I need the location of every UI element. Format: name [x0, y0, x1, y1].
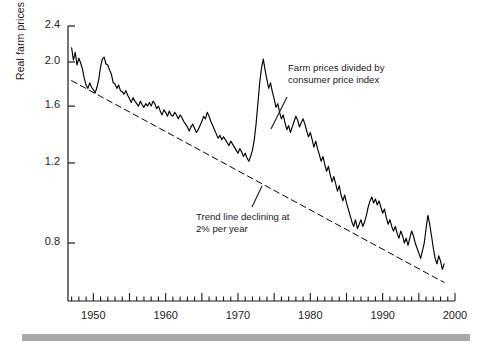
annotation-series-label: Farm prices divided by consumer price in… — [288, 62, 385, 87]
annotation-leader — [252, 186, 262, 207]
annotation-leader — [271, 97, 287, 129]
x-tick-label: 1980 — [280, 309, 340, 321]
y-tick-label: 1.6 — [24, 98, 60, 110]
footer-rule — [22, 334, 470, 341]
series-line-farm-prices — [72, 48, 445, 270]
x-tick-label: 2000 — [425, 309, 485, 321]
y-axis-title: Real farm prices (ratio scale) — [14, 0, 26, 80]
series-line-trend — [72, 81, 445, 283]
y-tick-label: 0.8 — [24, 235, 60, 247]
y-tick-label: 2.4 — [24, 18, 60, 30]
y-tick-label: 1.2 — [24, 155, 60, 167]
annotation-trend-label: Trend line declining at 2% per year — [196, 211, 290, 236]
chart-figure: Real farm prices (ratio scale) 0.81.21.6… — [0, 0, 492, 353]
x-tick-label: 1970 — [208, 309, 268, 321]
y-tick-label: 2.0 — [24, 54, 60, 66]
chart-series — [72, 48, 445, 283]
chart-canvas — [0, 0, 492, 353]
x-tick-label: 1990 — [353, 309, 413, 321]
x-tick-label: 1950 — [63, 309, 123, 321]
x-tick-label: 1960 — [136, 309, 196, 321]
